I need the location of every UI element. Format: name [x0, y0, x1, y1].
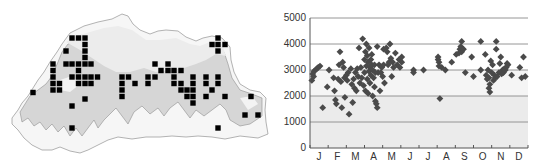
x-tick-label: J: [312, 151, 326, 162]
occurrence-square: [190, 81, 195, 86]
y-tick-label: 3000: [270, 64, 306, 75]
occurrence-square: [82, 55, 87, 60]
occurrence-square: [190, 87, 195, 92]
occurrence-square: [76, 74, 81, 79]
y-tick-label: 1000: [270, 116, 306, 127]
occurrence-square: [209, 42, 214, 47]
data-point: [337, 48, 344, 55]
occurrence-square: [119, 94, 124, 99]
occurrence-square: [82, 74, 87, 79]
occurrence-square: [119, 74, 124, 79]
occurrence-square: [82, 35, 87, 40]
x-tick-label: S: [457, 151, 471, 162]
occurrence-square: [215, 125, 220, 130]
occurrence-square: [95, 74, 100, 79]
occurrence-square: [145, 74, 150, 79]
occurrence-square: [57, 81, 62, 86]
occurrence-square: [50, 61, 55, 66]
occurrence-square: [215, 81, 220, 86]
occurrence-square: [63, 61, 68, 66]
occurrence-square: [158, 68, 163, 73]
occurrence-square: [248, 94, 253, 99]
occurrence-square: [171, 68, 176, 73]
y-tick-label: 2000: [270, 90, 306, 101]
occurrence-square: [50, 81, 55, 86]
data-point: [392, 50, 399, 57]
occurrence-square: [69, 35, 74, 40]
occurrence-square: [76, 35, 81, 40]
data-point: [448, 59, 455, 66]
occurrence-square: [119, 87, 124, 92]
data-point: [468, 54, 475, 61]
data-point: [356, 45, 363, 52]
occurrence-square: [242, 112, 247, 117]
occurrence-square: [203, 94, 208, 99]
occurrence-square: [132, 81, 137, 86]
x-tick-label: D: [512, 151, 526, 162]
x-tick-label: F: [330, 151, 344, 162]
occurrence-square: [165, 61, 170, 66]
data-point: [520, 54, 527, 61]
occurrence-square: [222, 94, 227, 99]
occurrence-square: [171, 74, 176, 79]
data-point: [497, 54, 504, 61]
occurrence-square: [82, 61, 87, 66]
occurrence-square: [119, 81, 124, 86]
occurrence-square: [57, 87, 62, 92]
occurrence-square: [69, 125, 74, 130]
occurrence-square: [88, 61, 93, 66]
occurrence-square: [82, 42, 87, 47]
occurrence-square: [190, 94, 195, 99]
occurrence-square: [63, 48, 68, 53]
y-tick-label: 5000: [270, 12, 306, 23]
occurrence-square: [178, 81, 183, 86]
occurrence-square: [50, 74, 55, 79]
y-tick-label: 4000: [270, 38, 306, 49]
occurrence-square: [30, 90, 35, 95]
occurrence-square: [255, 112, 260, 117]
occurrence-square: [145, 81, 150, 86]
data-point: [359, 35, 366, 42]
data-point: [493, 46, 500, 53]
x-tick-label: M: [385, 151, 399, 162]
occurrence-square: [88, 81, 93, 86]
occurrence-square: [82, 81, 87, 86]
data-point: [482, 51, 489, 58]
occurrence-square: [203, 81, 208, 86]
occurrence-square: [76, 68, 81, 73]
occurrence-square: [69, 103, 74, 108]
occurrence-square: [222, 42, 227, 47]
occurrence-square: [215, 35, 220, 40]
x-tick-label: O: [476, 151, 490, 162]
occurrence-square: [69, 74, 74, 79]
x-tick-label: N: [494, 151, 508, 162]
data-point: [496, 60, 503, 67]
occurrence-square: [50, 87, 55, 92]
occurrence-square: [76, 81, 81, 86]
occurrence-square: [215, 42, 220, 47]
occurrence-square: [190, 100, 195, 105]
distribution-map: [0, 0, 285, 168]
occurrence-square: [171, 81, 176, 86]
x-tick-label: A: [367, 151, 381, 162]
occurrence-square: [82, 48, 87, 53]
y-tick-label: 0: [270, 142, 306, 153]
occurrence-square: [126, 74, 131, 79]
occurrence-square: [215, 48, 220, 53]
occurrence-square: [184, 87, 189, 92]
occurrence-square: [203, 74, 208, 79]
x-tick-label: M: [348, 151, 362, 162]
occurrence-square: [50, 68, 55, 73]
occurrence-square: [209, 87, 214, 92]
occurrence-square: [184, 94, 189, 99]
x-tick-label: J: [403, 151, 417, 162]
occurrence-square: [152, 61, 157, 66]
occurrence-square: [165, 68, 170, 73]
elevation-by-month-chart: [285, 0, 542, 168]
occurrence-square: [82, 96, 87, 101]
occurrence-square: [215, 74, 220, 79]
occurrence-square: [69, 61, 74, 66]
occurrence-square: [178, 68, 183, 73]
occurrence-square: [178, 87, 183, 92]
occurrence-square: [190, 74, 195, 79]
